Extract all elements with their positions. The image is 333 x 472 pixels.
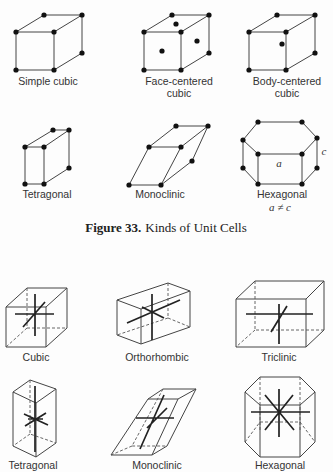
label-hexagonal-system: Hexagonal: [255, 459, 305, 471]
label-bcc-line1: Body-centered: [253, 75, 321, 87]
simple-cubic-diagram: [13, 12, 84, 72]
label-monoclinic-cell: Monoclinic: [135, 188, 185, 200]
tetragonal-cell-diagram: [22, 127, 71, 186]
orthorhombic-system-diagram: [117, 283, 190, 344]
figure-caption: Figure 33.Kinds of Unit Cells: [85, 220, 247, 235]
dimension-c-label: c: [322, 145, 327, 157]
label-fcc-line1: Face-centered: [145, 75, 213, 87]
label-fcc-line2: cubic: [167, 87, 192, 99]
tetragonal-system-diagram: [13, 380, 56, 457]
label-tetragonal-cell: Tetragonal: [22, 188, 71, 200]
unit-cells-figure: Simple cubic Face-centered cubic Body-ce…: [0, 0, 333, 472]
label-hexagonal-cell: Hexagonal: [257, 188, 307, 200]
monoclinic-cell-diagram: [126, 123, 210, 187]
cubic-system-diagram: [6, 288, 67, 347]
label-a-neq-c: a ≠ c: [269, 201, 291, 213]
label-cubic: Cubic: [23, 351, 50, 363]
label-monoclinic-system: Monoclinic: [132, 459, 182, 471]
body-centered-cubic-diagram: [246, 12, 317, 72]
caption-text: Kinds of Unit Cells: [145, 220, 246, 235]
label-orthorhombic: Orthorhombic: [125, 351, 189, 363]
hexagonal-system-diagram: [245, 377, 315, 457]
dimension-a-label: a: [276, 157, 282, 169]
triclinic-system-diagram: [236, 281, 324, 347]
label-simple-cubic: Simple cubic: [18, 75, 78, 87]
label-triclinic: Triclinic: [261, 351, 296, 363]
label-bcc-line2: cubic: [275, 87, 300, 99]
hexagonal-cell-diagram: [240, 119, 319, 186]
monoclinic-system-diagram: [111, 389, 196, 455]
face-centered-cubic-diagram: [141, 12, 211, 72]
caption-number: Figure 33.: [85, 220, 141, 235]
label-tetragonal-system: Tetragonal: [8, 459, 57, 471]
